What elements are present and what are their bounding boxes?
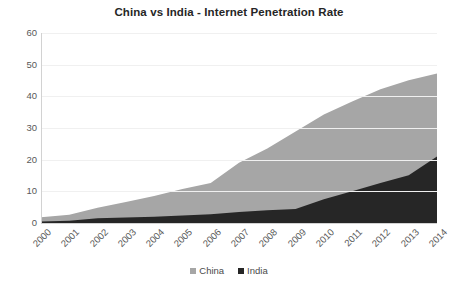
legend-swatch-icon bbox=[238, 268, 244, 274]
x-axis: 2000200120022003200420052006200720082009… bbox=[0, 0, 458, 285]
legend-label: China bbox=[199, 265, 224, 276]
legend-swatch-icon bbox=[190, 268, 196, 274]
legend-item-india[interactable]: India bbox=[238, 265, 268, 276]
legend-item-china[interactable]: China bbox=[190, 265, 224, 276]
chart-legend: ChinaIndia bbox=[0, 265, 458, 276]
legend-label: India bbox=[247, 265, 268, 276]
chart-container: China vs India - Internet Penetration Ra… bbox=[0, 0, 458, 285]
